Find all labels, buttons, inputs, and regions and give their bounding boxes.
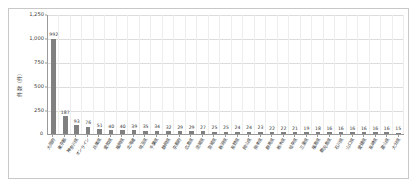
bar-value-label: 25 <box>212 126 218 131</box>
bar-value-label: 35 <box>143 125 149 130</box>
bar-slot[interactable]: 16 <box>324 15 335 134</box>
bar[interactable] <box>63 116 68 134</box>
bar-slot[interactable]: 16 <box>370 15 381 134</box>
bar[interactable] <box>109 130 114 134</box>
bar[interactable] <box>247 132 252 134</box>
x-axis-label-slot: 大阪府 <box>47 138 59 178</box>
x-axis-tick-slot <box>93 135 105 137</box>
bar-slot[interactable]: 992 <box>48 15 59 134</box>
bar[interactable] <box>166 131 171 134</box>
bar[interactable] <box>350 132 355 134</box>
bar-slot[interactable]: 19 <box>301 15 312 134</box>
x-axis-label-slot: 愛知県 <box>105 138 117 178</box>
bar-value-label: 16 <box>384 127 390 132</box>
x-axis-label-slot: 富山県 <box>381 138 393 178</box>
bar-value-label: 21 <box>292 127 298 132</box>
bar[interactable] <box>132 130 137 134</box>
bar-value-label: 40 <box>108 125 114 130</box>
bar-slot[interactable]: 15 <box>393 15 404 134</box>
bar-slot[interactable]: 21 <box>289 15 300 134</box>
bar-slot[interactable]: 32 <box>163 15 174 134</box>
bar-value-label: 27 <box>200 126 206 131</box>
x-axis-category-label: 石川県 <box>334 138 344 150</box>
x-axis-tick-slot <box>116 135 128 137</box>
bar[interactable] <box>86 127 91 134</box>
x-axis-tick-slot <box>346 135 358 137</box>
bar-slot[interactable]: 35 <box>140 15 151 134</box>
bar-slot[interactable]: 25 <box>209 15 220 134</box>
bar-slot[interactable]: 29 <box>174 15 185 134</box>
bar-slot[interactable]: 16 <box>347 15 358 134</box>
bar-slot[interactable]: 24 <box>243 15 254 134</box>
y-axis-zero-label: 0 <box>40 131 43 136</box>
x-axis-category-label: 岐阜県 <box>288 138 298 150</box>
bar-slot[interactable]: 22 <box>278 15 289 134</box>
bar[interactable] <box>201 131 206 134</box>
bar-value-label: 992 <box>49 33 58 38</box>
bar[interactable] <box>384 132 389 134</box>
bar[interactable] <box>224 132 229 134</box>
bar-value-label: 51 <box>97 124 103 129</box>
bar[interactable] <box>97 129 102 134</box>
x-axis-tick-slot <box>174 135 186 137</box>
x-axis-tick-slot <box>128 135 140 137</box>
bar[interactable] <box>235 132 240 134</box>
x-axis-tick-slot <box>59 135 71 137</box>
bar[interactable] <box>293 132 298 134</box>
bar[interactable] <box>212 132 217 134</box>
bar-slot[interactable]: 16 <box>358 15 369 134</box>
bar[interactable] <box>373 132 378 134</box>
bar[interactable] <box>120 130 125 134</box>
bar[interactable] <box>270 132 275 134</box>
bar-value-label: 16 <box>361 127 367 132</box>
x-axis-tick-slot <box>208 135 220 137</box>
bar-slot[interactable]: 16 <box>381 15 392 134</box>
x-axis-label-slot: 東京都 <box>59 138 71 178</box>
x-axis-category-label: 長野県 <box>230 138 240 150</box>
bar[interactable] <box>362 132 367 134</box>
x-axis-tick-slot <box>220 135 232 137</box>
x-axis-label-slot: 岐阜県 <box>289 138 301 178</box>
bar[interactable] <box>258 132 263 134</box>
x-axis-label-slot: 北海道 <box>128 138 140 178</box>
bar-slot[interactable]: 187 <box>59 15 70 134</box>
bar[interactable] <box>327 132 332 134</box>
bar-slot[interactable]: 16 <box>335 15 346 134</box>
y-axis-tick-label: 1,250 <box>29 12 44 17</box>
bar[interactable] <box>281 132 286 134</box>
y-axis-tick-label: 1,000 <box>29 36 44 41</box>
plot-area: 9921879376514040393534322929272525242423… <box>47 15 404 135</box>
bar[interactable] <box>51 39 56 134</box>
bar[interactable] <box>143 131 148 134</box>
bar[interactable] <box>155 131 160 134</box>
bar-slot[interactable]: 18 <box>312 15 323 134</box>
bar-slot[interactable]: 25 <box>220 15 231 134</box>
bar[interactable] <box>74 125 79 134</box>
x-axis-tick-slot <box>358 135 370 137</box>
bar[interactable] <box>304 132 309 134</box>
bar-slot[interactable]: 22 <box>266 15 277 134</box>
bar[interactable] <box>189 131 194 134</box>
bar-slot[interactable]: 51 <box>94 15 105 134</box>
bar-slot[interactable]: 39 <box>128 15 139 134</box>
bar-slot[interactable]: 34 <box>151 15 162 134</box>
bar-value-label: 22 <box>269 127 275 132</box>
x-axis-tick-mark <box>179 135 180 137</box>
x-axis-tick-mark <box>202 135 203 137</box>
bar[interactable] <box>178 131 183 134</box>
x-axis-tick-mark <box>213 135 214 137</box>
bar-slot[interactable]: 27 <box>197 15 208 134</box>
bar-slot[interactable]: 23 <box>255 15 266 134</box>
bar-slot[interactable]: 29 <box>186 15 197 134</box>
bar-slot[interactable]: 40 <box>105 15 116 134</box>
bar[interactable] <box>316 132 321 134</box>
bar[interactable] <box>396 133 401 134</box>
bar-slot[interactable]: 93 <box>71 15 82 134</box>
x-axis-tick-slot <box>185 135 197 137</box>
bar-slot[interactable]: 76 <box>82 15 93 134</box>
x-axis-label-slot: 山口県 <box>346 138 358 178</box>
bar-slot[interactable]: 24 <box>232 15 243 134</box>
bar[interactable] <box>339 132 344 134</box>
x-axis-tick-mark <box>306 135 307 137</box>
bar-slot[interactable]: 40 <box>117 15 128 134</box>
